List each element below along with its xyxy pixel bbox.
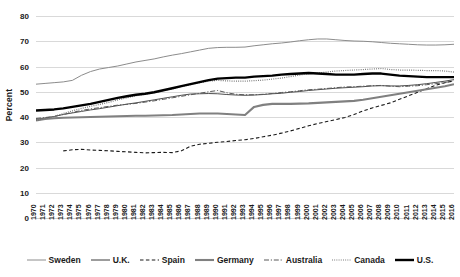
x-tick-label: 2016 <box>448 204 455 220</box>
x-tick-label: 2004 <box>338 204 345 220</box>
x-tick-label: 2007 <box>366 204 373 220</box>
x-tick-label: 1984 <box>157 204 164 220</box>
x-tick-label: 2005 <box>348 204 355 220</box>
x-tick-label: 1981 <box>129 204 136 220</box>
legend-swatch-icon <box>27 256 46 264</box>
series-lines <box>36 16 454 218</box>
legend-item-sweden[interactable]: Sweden <box>27 255 81 265</box>
x-tick-label: 1971 <box>39 204 46 220</box>
x-tick-label: 1978 <box>102 204 109 220</box>
x-tick-label: 2003 <box>329 204 336 220</box>
x-tick-label: 1972 <box>48 204 55 220</box>
y-axis-tick-labels: 01020304050607080 <box>0 16 34 218</box>
series-line-australia <box>36 81 454 118</box>
x-tick-label: 1992 <box>229 204 236 220</box>
x-tick-label: 1995 <box>257 204 264 220</box>
x-tick-label: 1975 <box>75 204 82 220</box>
x-tick-label: 2000 <box>302 204 309 220</box>
x-tick-label: 2013 <box>420 204 427 220</box>
x-tick-label: 1991 <box>220 204 227 220</box>
x-tick-label: 1979 <box>111 204 118 220</box>
legend-label: Sweden <box>49 255 81 265</box>
x-tick-label: 2008 <box>375 204 382 220</box>
x-tick-label: 1986 <box>175 204 182 220</box>
legend-label: Australia <box>286 255 322 265</box>
legend-label: U.S. <box>417 255 434 265</box>
legend-swatch-icon <box>264 256 283 264</box>
x-tick-label: 2001 <box>311 204 318 220</box>
y-tick-label: 60 <box>20 62 29 71</box>
x-tick-label: 1988 <box>193 204 200 220</box>
legend-label: Germany <box>217 255 254 265</box>
x-tick-label: 1977 <box>93 204 100 220</box>
legend-swatch-icon <box>91 256 110 264</box>
x-tick-label: 2011 <box>402 205 409 220</box>
legend-item-us[interactable]: U.S. <box>395 255 434 265</box>
legend-swatch-icon <box>195 256 214 264</box>
x-axis-tick-labels: 1970197119721973197419751976197719781979… <box>36 220 454 252</box>
x-tick-label: 1985 <box>166 204 173 220</box>
x-tick-label: 1987 <box>184 204 191 220</box>
x-tick-label: 1990 <box>211 204 218 220</box>
x-tick-label: 1970 <box>30 204 37 220</box>
x-tick-label: 1974 <box>66 204 73 220</box>
x-tick-label: 1998 <box>284 204 291 220</box>
x-tick-label: 1983 <box>148 204 155 220</box>
x-tick-label: 1980 <box>120 204 127 220</box>
legend-item-australia[interactable]: Australia <box>264 255 322 265</box>
x-tick-label: 1994 <box>248 204 255 220</box>
x-tick-label: 1989 <box>202 204 209 220</box>
y-tick-label: 20 <box>20 163 29 172</box>
legend-label: Spain <box>162 255 185 265</box>
x-tick-label: 1976 <box>84 204 91 220</box>
legend-item-germany[interactable]: Germany <box>195 255 254 265</box>
x-tick-label: 1973 <box>57 204 64 220</box>
x-tick-label: 2009 <box>384 204 391 220</box>
y-tick-label: 80 <box>20 12 29 21</box>
x-tick-label: 1999 <box>293 204 300 220</box>
x-tick-label: 1982 <box>139 204 146 220</box>
x-tick-label: 2002 <box>320 204 327 220</box>
line-chart: Percent 01020304050607080 19701971197219… <box>0 0 460 277</box>
legend-item-uk[interactable]: U.K. <box>91 255 130 265</box>
legend-item-canada[interactable]: Canada <box>332 255 385 265</box>
y-tick-label: 0 <box>25 214 29 223</box>
x-tick-label: 2006 <box>357 204 364 220</box>
plot-area <box>36 16 454 218</box>
legend-label: U.K. <box>113 255 130 265</box>
x-tick-label: 1996 <box>266 204 273 220</box>
x-tick-label: 1993 <box>239 204 246 220</box>
x-tick-label: 1997 <box>275 204 282 220</box>
legend-label: Canada <box>354 255 385 265</box>
chart-legend: SwedenU.K.SpainGermanyAustraliaCanadaU.S… <box>0 255 460 265</box>
legend-swatch-icon <box>395 256 414 264</box>
x-tick-label: 2014 <box>429 204 436 220</box>
y-tick-label: 10 <box>20 188 29 197</box>
y-tick-label: 30 <box>20 138 29 147</box>
series-line-uk <box>36 80 454 120</box>
legend-item-spain[interactable]: Spain <box>140 255 185 265</box>
x-tick-label: 2015 <box>438 204 445 220</box>
y-tick-label: 40 <box>20 113 29 122</box>
legend-swatch-icon <box>332 256 351 264</box>
x-tick-label: 2012 <box>411 204 418 220</box>
x-tick-label: 2010 <box>393 204 400 220</box>
y-tick-label: 70 <box>20 37 29 46</box>
y-tick-label: 50 <box>20 87 29 96</box>
legend-swatch-icon <box>140 256 159 264</box>
